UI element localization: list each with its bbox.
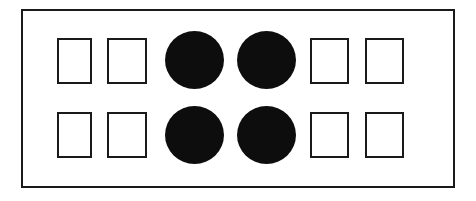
- square-row1-col2: [107, 38, 147, 84]
- circle-row1-col4: [237, 31, 296, 89]
- circle-row2-col4: [237, 106, 296, 164]
- square-row1-col1: [57, 38, 92, 84]
- square-row1-col5: [310, 38, 349, 84]
- shape-grid: [0, 0, 476, 201]
- circle-row2-col3: [165, 106, 224, 164]
- square-row2-col2: [107, 112, 147, 158]
- square-row1-col6: [365, 38, 404, 84]
- circle-row1-col3: [165, 31, 224, 89]
- figure-canvas: [0, 0, 476, 201]
- square-row2-col6: [365, 112, 404, 158]
- square-row2-col1: [57, 112, 92, 158]
- square-row2-col5: [310, 112, 349, 158]
